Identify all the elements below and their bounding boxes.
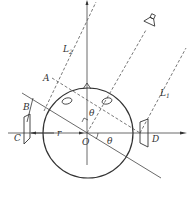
speaker-icon	[144, 12, 159, 26]
physics-diagram: A B C D O r θ θ L2 L1	[0, 0, 192, 204]
label-B: B	[22, 102, 30, 112]
label-L2: L2	[62, 44, 73, 55]
radius-arrow-left	[31, 132, 36, 135]
label-A: A	[42, 73, 50, 83]
label-theta-top: θ	[89, 108, 95, 118]
label-C: C	[14, 133, 21, 143]
label-theta-bottom: θ	[107, 136, 113, 146]
label-D: D	[151, 134, 159, 144]
ray-L2	[44, 2, 96, 111]
radius-arrow-right	[79, 132, 84, 135]
label-r: r	[57, 128, 62, 138]
vertical-arrowhead	[86, 0, 89, 5]
label-L1: L1	[159, 88, 170, 99]
left-ear	[61, 97, 72, 105]
label-O: O	[82, 137, 90, 147]
dashed-line-AD	[52, 78, 140, 133]
ray-to-speaker	[87, 30, 146, 133]
microphone-C	[24, 114, 30, 144]
horizontal-arrowhead	[180, 132, 187, 135]
theta-arc-bottom	[96, 133, 98, 139]
right-ear	[101, 97, 112, 105]
